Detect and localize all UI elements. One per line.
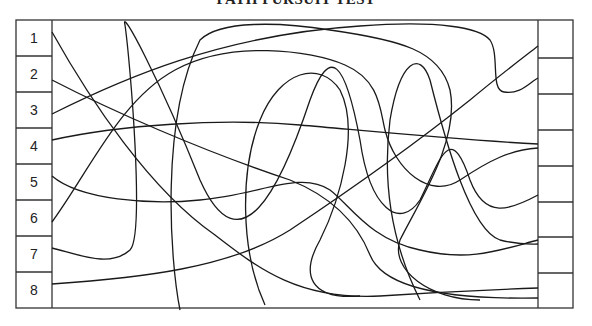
path-line-2 [52,80,538,298]
path-line-7 [52,22,538,259]
left-box-label-6: 6 [30,210,38,226]
path-line-5 [52,176,538,255]
path-line-6 [52,51,538,222]
left-box-label-4: 4 [30,138,38,154]
path-line-loop-c [387,64,538,300]
left-box-label-1: 1 [30,30,38,46]
left-box-label-8: 8 [30,282,38,298]
path-line-3 [52,24,538,114]
left-box-label-3: 3 [30,102,38,118]
left-box-label-7: 7 [30,246,38,262]
path-line-1 [52,32,538,296]
left-box-label-2: 2 [30,66,38,82]
left-box-dividers [16,56,52,272]
right-box-dividers [538,58,573,273]
path-pursuit-board: 1 2 3 4 5 6 7 8 [0,0,592,326]
pursuit-lines [52,22,538,310]
left-box-label-5: 5 [30,174,38,190]
path-line-8 [52,46,538,284]
outer-frame [16,20,573,308]
path-line-loop-a [171,24,480,310]
